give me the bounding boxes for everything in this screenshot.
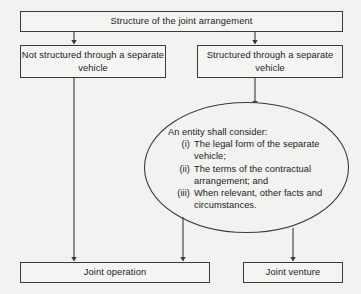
node-structured-through-separate-vehicle: Structured through a separate vehicle: [197, 45, 343, 78]
node-joint-operation: Joint operation: [20, 262, 210, 283]
consideration-item-marker: (i): [174, 138, 194, 162]
node-joint-venture: Joint venture: [243, 262, 343, 283]
consideration-item-marker: (iii): [174, 187, 194, 211]
consideration-item: (i) The legal form of the separate vehic…: [174, 138, 336, 162]
node-label: Structure of the joint arrangement: [111, 15, 253, 28]
flowchart-diagram: Structure of the joint arrangement Not s…: [0, 0, 361, 294]
consideration-item-text: The terms of the contractual arrangement…: [194, 163, 336, 187]
consideration-lead: An entity shall consider:: [168, 126, 336, 138]
node-label: Not structured through a separate vehicl…: [21, 49, 165, 75]
consideration-item: (iii) When relevant, other facts and cir…: [174, 187, 336, 211]
node-label: Joint operation: [84, 266, 147, 279]
consideration-item: (ii) The terms of the contractual arrang…: [174, 163, 336, 187]
node-not-structured-through-separate-vehicle: Not structured through a separate vehicl…: [20, 45, 166, 78]
node-label: Structured through a separate vehicle: [198, 49, 342, 75]
consideration-item-text: The legal form of the separate vehicle;: [194, 138, 336, 162]
node-structure-of-joint-arrangement: Structure of the joint arrangement: [20, 11, 343, 32]
node-label: Joint venture: [266, 266, 321, 279]
consideration-item-marker: (ii): [174, 163, 194, 187]
consideration-text-block: An entity shall consider: (i) The legal …: [168, 126, 336, 211]
consideration-item-text: When relevant, other facts and circumsta…: [194, 187, 336, 211]
